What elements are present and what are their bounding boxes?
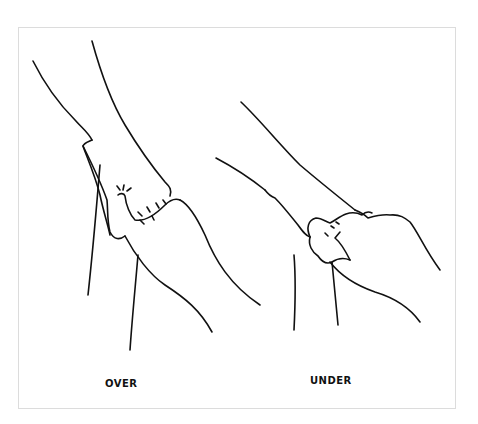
- panel-under-drawing: [216, 102, 440, 330]
- caption-under: UNDER: [310, 375, 352, 386]
- hand-position-illustration: [0, 0, 478, 424]
- panel-over-drawing: [33, 41, 260, 350]
- caption-over: OVER: [105, 378, 138, 389]
